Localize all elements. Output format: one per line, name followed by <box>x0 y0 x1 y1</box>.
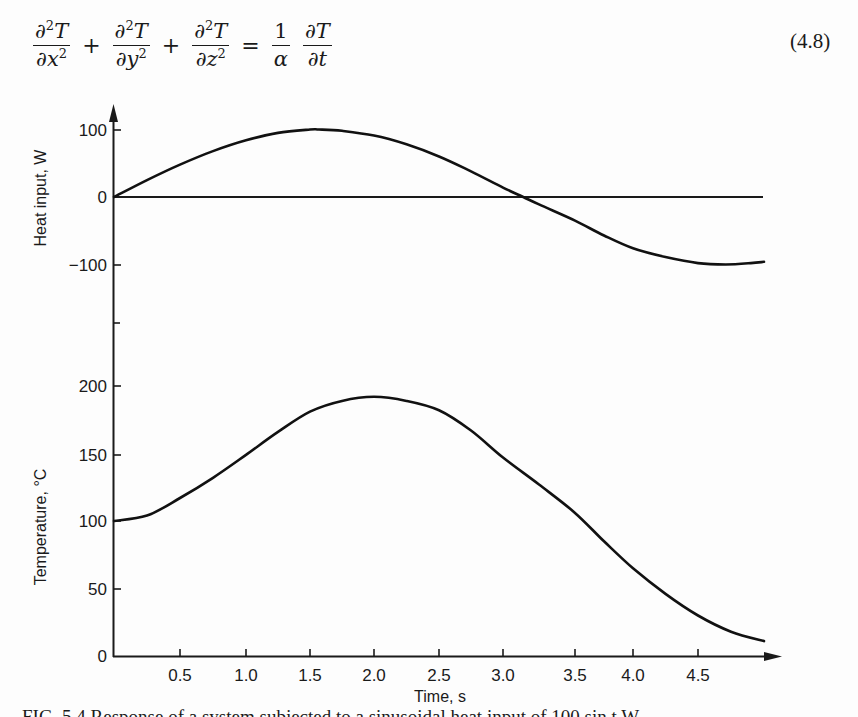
y-tick-label: 200 <box>79 377 107 396</box>
y-tick-label: 100 <box>79 121 107 140</box>
textbook-page: ∂2T ∂x2 + ∂2T ∂y2 + ∂2T ∂z2 = 1 α ∂T ∂t … <box>0 0 858 717</box>
x-tick-label: 1.0 <box>234 666 258 685</box>
x-tick-label: 0.5 <box>168 666 192 685</box>
x-tick-label: 3.0 <box>491 666 515 685</box>
x-tick-label: 4.0 <box>621 666 645 685</box>
x-axis-title: Time, s <box>414 688 466 705</box>
x-tick-label: 2.5 <box>427 666 451 685</box>
y-tick-label: −100 <box>69 256 107 275</box>
temperature-curve <box>114 397 764 641</box>
y-tick-label: 0 <box>98 188 107 207</box>
y-tick-label: 100 <box>79 512 107 531</box>
figure-caption: FIG. 5.4 Response of a system subjected … <box>22 704 858 717</box>
response-chart: 1000−100 200150100500 0.51.01.52.02.53.0… <box>0 0 858 717</box>
x-tick-label: 1.5 <box>298 666 322 685</box>
x-tick-label: 2.0 <box>362 666 386 685</box>
y-tick-label: 150 <box>79 446 107 465</box>
time-x-ticks: 0.51.01.52.02.53.03.54.04.5 <box>168 649 710 685</box>
y-axis-arrow-icon <box>109 104 118 122</box>
x-axis-arrow-icon <box>764 652 782 661</box>
y-tick-label: 50 <box>88 580 107 599</box>
y-axis-title-heat: Heat input, W <box>32 149 49 247</box>
y-axis-title-temperature: Temperature, °C <box>32 469 49 586</box>
y-tick-label: 0 <box>98 647 107 666</box>
x-tick-label: 4.5 <box>686 666 710 685</box>
x-tick-label: 3.5 <box>563 666 587 685</box>
